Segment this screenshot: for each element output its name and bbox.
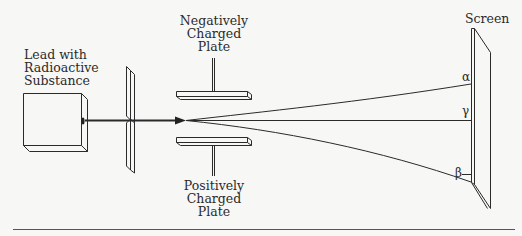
positive-plate	[177, 138, 252, 177]
negative-plate	[177, 58, 252, 100]
lead-box	[24, 94, 88, 152]
negative-plate-label: Negatively Charged Plate	[178, 14, 250, 53]
alpha-label: α	[462, 71, 470, 83]
source-hole-icon	[81, 117, 84, 124]
positive-plate-label-line: Plate	[178, 205, 250, 218]
source-label-line: Substance	[24, 74, 99, 87]
alpha-ray-path	[186, 84, 471, 121]
negative-plate-label-line: Plate	[178, 40, 250, 53]
beta-ray-path	[186, 121, 471, 183]
diagram-drawing	[0, 0, 522, 236]
beta-label: β	[455, 167, 462, 179]
arrow-head-icon	[175, 117, 186, 125]
radiation-beam	[85, 117, 186, 125]
source-label: Lead with Radioactive Substance	[24, 48, 99, 87]
gamma-label: γ	[462, 105, 469, 117]
positive-plate-label: Positively Charged Plate	[178, 179, 250, 218]
screen	[462, 29, 491, 209]
screen-label: Screen	[465, 12, 509, 25]
radiation-deflection-diagram: Lead with Radioactive Substance Negative…	[0, 0, 522, 236]
